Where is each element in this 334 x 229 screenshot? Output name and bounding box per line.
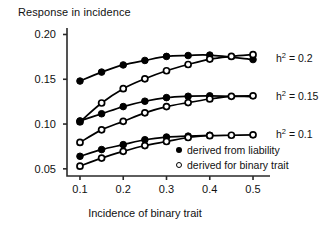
marker-filled-2-2 [120, 103, 127, 110]
marker-open-5-2 [120, 148, 126, 154]
marker-filled-0-5 [185, 52, 192, 59]
marker-filled-4-0 [77, 153, 84, 160]
x-tick-label-4: 0.5 [238, 183, 268, 195]
marker-open-5-5 [185, 134, 191, 140]
marker-open-3-1 [99, 127, 105, 133]
marker-filled-4-1 [98, 146, 105, 153]
marker-filled-2-0 [77, 118, 84, 125]
x-tick-label-3: 0.4 [195, 183, 225, 195]
marker-open-5-6 [207, 133, 213, 139]
marker-open-1-8 [250, 52, 256, 58]
marker-filled-0-3 [142, 57, 149, 64]
marker-open-3-4 [164, 104, 170, 110]
legend-item-label: derived from liability [187, 144, 280, 156]
marker-open-3-7 [228, 93, 234, 99]
marker-open-5-7 [228, 132, 234, 138]
legend-item-label: derived for binary trait [187, 159, 289, 171]
marker-open-3-5 [185, 100, 191, 106]
marker-open-1-1 [99, 100, 105, 106]
marker-open-3-8 [250, 93, 256, 99]
series-annotation-0: h2 = 0.2 [276, 52, 313, 64]
marker-open-1-5 [185, 61, 191, 67]
marker-open-5-4 [164, 139, 170, 145]
marker-open-3-2 [120, 118, 126, 124]
marker-open-1-7 [228, 53, 234, 59]
marker-open-3-6 [207, 96, 213, 102]
chart-figure: Response in incidence Incidence of binar… [0, 0, 334, 229]
marker-open-5-0 [77, 163, 83, 169]
series-annotation-1: h2 = 0.15 [276, 90, 318, 102]
marker-filled-4-2 [120, 141, 127, 148]
filled-circle-icon [176, 147, 182, 153]
legend-item-1: derived for binary trait [176, 159, 289, 171]
x-tick-label-0: 0.1 [65, 183, 95, 195]
series-annotation-2: h2 = 0.1 [276, 128, 313, 140]
marker-filled-2-3 [142, 98, 149, 105]
x-tick-label-1: 0.2 [108, 183, 138, 195]
marker-open-3-3 [142, 110, 148, 116]
open-circle-icon [176, 162, 182, 168]
y-tick-label-2: 0.10 [22, 118, 56, 130]
y-axis-label: Response in incidence [18, 6, 131, 18]
x-tick-label-2: 0.3 [152, 183, 182, 195]
marker-filled-2-1 [98, 110, 105, 117]
marker-open-1-4 [164, 68, 170, 74]
marker-filled-0-2 [120, 62, 127, 69]
marker-open-1-3 [142, 76, 148, 82]
marker-filled-2-4 [163, 94, 170, 101]
marker-open-5-8 [250, 132, 256, 138]
marker-open-1-6 [207, 56, 213, 62]
marker-filled-0-4 [163, 53, 170, 60]
marker-open-5-3 [142, 143, 148, 149]
y-tick-label-3: 0.05 [22, 163, 56, 175]
legend-item-0: derived from liability [176, 144, 280, 156]
marker-open-3-0 [77, 139, 83, 145]
marker-filled-0-0 [77, 78, 84, 85]
x-axis-label: Incidence of binary trait [0, 207, 290, 219]
marker-filled-2-5 [185, 93, 192, 100]
marker-open-1-2 [120, 86, 126, 92]
y-tick-label-1: 0.15 [22, 73, 56, 85]
y-tick-label-0: 0.20 [22, 28, 56, 40]
marker-open-5-1 [99, 155, 105, 161]
marker-filled-0-1 [98, 69, 105, 76]
